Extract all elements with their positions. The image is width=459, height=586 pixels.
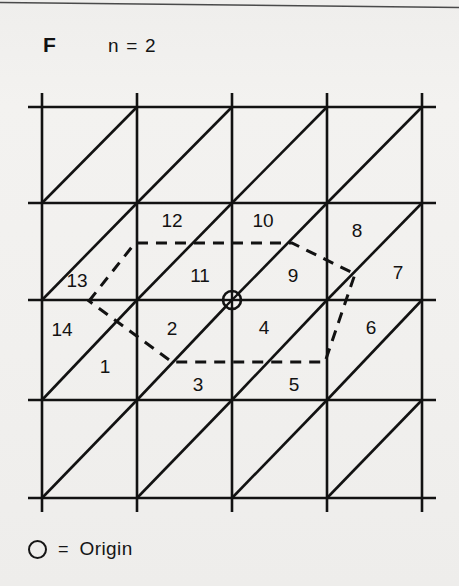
origin-circle-icon [28, 540, 47, 559]
cell-label-8: 8 [352, 220, 363, 241]
legend: = Origin [28, 538, 133, 560]
cell-label-5: 5 [289, 374, 300, 395]
diagonal-line-15 [327, 400, 422, 498]
diagonal-line-1 [137, 107, 232, 203]
cell-label-11: 11 [190, 265, 210, 286]
diagonal-line-8 [42, 300, 137, 400]
diagonal-line-13 [137, 400, 232, 498]
cell-label-1: 1 [100, 356, 111, 377]
cell-label-2: 2 [167, 318, 178, 339]
diagonal-line-9 [137, 300, 232, 400]
diagonal-line-3 [327, 107, 422, 203]
diagonal-line-12 [42, 400, 137, 498]
dashed-region-boundary [89, 243, 355, 362]
cell-label-3: 3 [193, 374, 204, 395]
cell-label-10: 10 [252, 210, 273, 231]
cell-label-6: 6 [366, 317, 377, 338]
second-neighbour-cell-boundary [89, 243, 355, 362]
legend-equals: = [58, 539, 69, 560]
diagonal-line-4 [42, 203, 137, 300]
diagonal-line-14 [232, 400, 327, 498]
cell-label-12: 12 [161, 210, 182, 231]
cell-label-14: 14 [51, 319, 73, 340]
diagonal-line-5 [137, 203, 232, 300]
cell-label-9: 9 [288, 265, 299, 286]
diagonal-line-2 [232, 107, 327, 203]
cell-label-7: 7 [393, 262, 404, 283]
figure-root: F n = 2 1234567891011121314 = Origin [0, 0, 459, 586]
diagonal-line-6 [232, 203, 327, 300]
origin-marker [223, 291, 241, 309]
cell-label-13: 13 [66, 270, 87, 291]
diagonal-line-7 [327, 203, 422, 300]
diagonal-line-0 [42, 107, 137, 203]
legend-label: Origin [80, 538, 133, 560]
lattice-diagram: 1234567891011121314 [0, 0, 459, 586]
cell-label-4: 4 [259, 317, 270, 338]
diagonal-line-10 [232, 300, 327, 400]
